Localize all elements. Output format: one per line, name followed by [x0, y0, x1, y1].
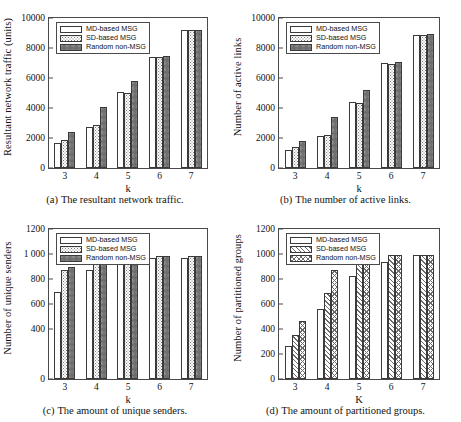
legend-swatch-icon [290, 237, 312, 244]
legend-label: MD-based MSG [316, 25, 368, 33]
x-axis-label-a: k [49, 183, 207, 194]
y-tick-mark [49, 379, 53, 380]
bar [292, 335, 299, 379]
y-tick-label: 800 [31, 274, 49, 284]
bar [292, 147, 299, 168]
bar [93, 262, 100, 380]
bar [86, 270, 93, 379]
y-tick-mark [279, 354, 283, 355]
x-tick-label: 6 [389, 379, 394, 392]
caption-text: The amount of partitioned groups. [281, 405, 425, 416]
y-tick-mark [49, 329, 53, 330]
y-tick-mark [279, 18, 283, 19]
legend-label: Random non-MSG [316, 254, 376, 262]
bar-group [175, 229, 207, 379]
y-tick-mark [49, 168, 53, 169]
x-tick-label: 3 [293, 379, 298, 392]
legend-row: MD-based MSG [290, 25, 376, 33]
y-tick-mark [49, 229, 53, 230]
bar [68, 267, 75, 380]
bar [195, 30, 202, 168]
bar [299, 141, 306, 168]
legend-row: SD-based MSG [290, 34, 376, 42]
y-tick-label: 2000 [256, 133, 279, 143]
legend-row: Random non-MSG [60, 43, 146, 51]
legend-row: SD-based MSG [60, 34, 146, 42]
x-axis-label-b: k [279, 183, 439, 194]
plot-area-c: MD-based MSG SD-based MSG Random non-MSG… [48, 228, 208, 380]
bar [388, 64, 395, 168]
y-tick-mark [49, 279, 53, 280]
legend-b: MD-based MSG SD-based MSG Random non-MSG [286, 22, 380, 54]
bar [124, 93, 131, 168]
y-tick-mark [279, 329, 283, 330]
y-tick-mark [279, 78, 283, 79]
bar [356, 103, 363, 168]
legend-row: MD-based MSG [290, 236, 376, 244]
bar [68, 132, 75, 168]
caption-tag: (b) [280, 194, 292, 205]
x-tick-label: 4 [325, 168, 330, 181]
x-tick-label: 5 [357, 379, 362, 392]
legend-label: MD-based MSG [86, 25, 138, 33]
y-tick-label: 1200 [26, 224, 49, 234]
bar [93, 125, 100, 168]
y-tick-label: 6000 [256, 73, 279, 83]
x-tick-label: 3 [62, 379, 67, 392]
x-tick-label: 5 [126, 379, 131, 392]
legend-row: SD-based MSG [60, 245, 146, 253]
legend-a: MD-based MSG SD-based MSG Random non-MSG [56, 22, 150, 54]
bar [117, 257, 124, 379]
x-tick-label: 4 [325, 379, 330, 392]
bar [163, 256, 170, 380]
legend-swatch-icon [60, 44, 82, 51]
bar [285, 346, 292, 379]
legend-label: MD-based MSG [316, 236, 368, 244]
panel-a: Resultant network traffic (units) MD-bas… [0, 0, 230, 211]
y-tick-label: 10000 [21, 13, 49, 23]
bar [363, 257, 370, 379]
y-tick-mark [279, 304, 283, 305]
legend-swatch-icon [290, 35, 312, 42]
bar [181, 258, 188, 380]
y-tick-mark [279, 138, 283, 139]
x-tick-label: 7 [189, 379, 194, 392]
y-tick-label: 800 [261, 274, 279, 284]
bar [163, 56, 170, 168]
y-tick-label: 600 [31, 299, 49, 309]
bar [195, 256, 202, 380]
legend-row: MD-based MSG [60, 236, 146, 244]
y-tick-label: 0 [270, 374, 279, 384]
bar [331, 117, 338, 168]
caption-b: (b)The number of active links. [230, 194, 461, 205]
plot-area-b: MD-based MSG SD-based MSG Random non-MSG… [278, 17, 440, 169]
y-tick-label: 6000 [26, 73, 49, 83]
bar [413, 255, 420, 379]
bar [149, 57, 156, 168]
y-tick-label: 400 [31, 324, 49, 334]
caption-tag: (c) [43, 405, 55, 416]
y-tick-label: 1200 [256, 224, 279, 234]
bar [61, 270, 68, 379]
chart-d: Number of partitioned groups MD-based MS… [230, 211, 461, 422]
legend-swatch-icon [60, 237, 82, 244]
x-tick-label: 6 [157, 168, 162, 181]
y-tick-label: 8000 [26, 43, 49, 53]
caption-d: (d)The amount of partitioned groups. [230, 405, 461, 416]
x-tick-label: 3 [62, 168, 67, 181]
chart-b: Number of active links MD-based MSG SD-b… [230, 0, 461, 211]
bar [381, 63, 388, 168]
bar [156, 57, 163, 168]
bar [331, 270, 338, 379]
bar [381, 262, 388, 379]
legend-label: MD-based MSG [86, 236, 138, 244]
bar [363, 90, 370, 168]
y-tick-label: 600 [261, 299, 279, 309]
chart-c: Number of unique senders MD-based MSG SD… [0, 211, 230, 422]
legend-row: SD-based MSG [290, 245, 376, 253]
panel-c: Number of unique senders MD-based MSG SD… [0, 211, 230, 422]
bar [54, 143, 61, 168]
x-tick-label: 4 [94, 379, 99, 392]
x-tick-label: 6 [389, 168, 394, 181]
bar [420, 255, 427, 379]
